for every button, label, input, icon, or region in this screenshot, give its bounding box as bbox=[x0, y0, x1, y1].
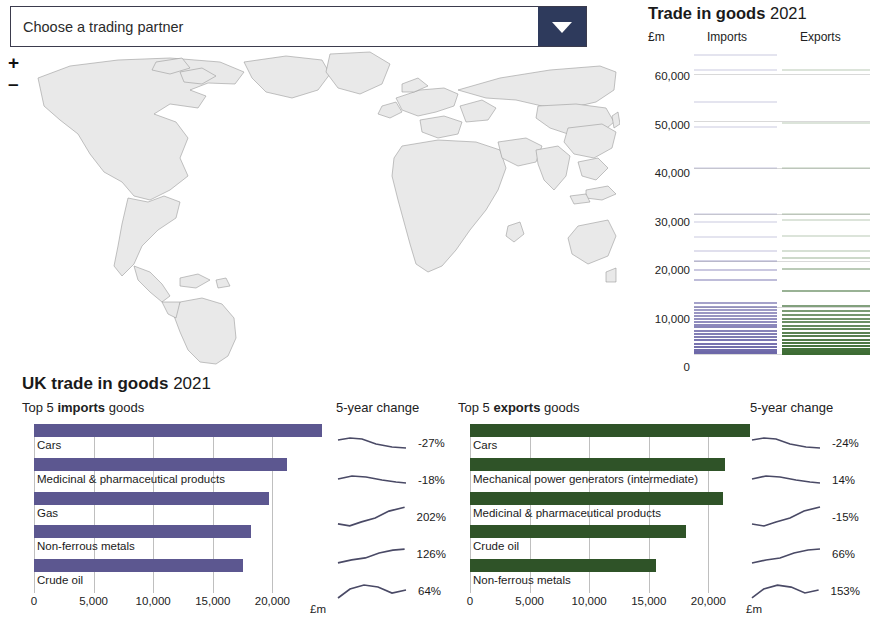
y-axis-tick-label: 40,000 bbox=[648, 167, 690, 179]
strip-mark[interactable] bbox=[694, 326, 777, 328]
strip-mark[interactable] bbox=[694, 324, 777, 326]
strip-mark[interactable] bbox=[694, 343, 777, 345]
strip-mark[interactable] bbox=[694, 236, 777, 238]
map-zoom-controls[interactable]: + – bbox=[8, 52, 28, 94]
strip-mark[interactable] bbox=[782, 321, 870, 323]
bar-row[interactable]: Mechanical power generators (intermediat… bbox=[470, 458, 768, 492]
strip-mark[interactable] bbox=[782, 213, 870, 215]
strip-mark[interactable] bbox=[782, 345, 870, 347]
x-axis-tick-label: 15,000 bbox=[195, 595, 230, 607]
strip-mark[interactable] bbox=[694, 126, 777, 128]
strip-mark[interactable] bbox=[694, 321, 777, 323]
x-axis-tick-label: 15,000 bbox=[631, 595, 666, 607]
strip-mark[interactable] bbox=[694, 167, 777, 169]
strip-mark[interactable] bbox=[782, 339, 870, 341]
bar-row[interactable]: Medicinal & pharmaceutical products bbox=[34, 458, 332, 492]
strip-mark[interactable] bbox=[694, 302, 777, 304]
bar-row[interactable]: Gas bbox=[34, 492, 332, 526]
strip-mark[interactable] bbox=[782, 342, 870, 344]
bar-category-label: Cars bbox=[473, 439, 497, 451]
strip-mark[interactable] bbox=[694, 346, 777, 348]
strip-mark[interactable] bbox=[694, 330, 777, 332]
strip-mark[interactable] bbox=[782, 219, 870, 221]
strip-mark[interactable] bbox=[694, 279, 777, 281]
strip-mark[interactable] bbox=[694, 352, 777, 354]
bar[interactable] bbox=[34, 525, 251, 538]
strip-mark[interactable] bbox=[694, 250, 777, 252]
strip-chart-exports-header: Exports bbox=[800, 30, 841, 44]
world-map-svg[interactable] bbox=[30, 50, 620, 365]
imports-subtitle-pre: Top 5 bbox=[22, 400, 57, 415]
strip-mark[interactable] bbox=[694, 101, 777, 103]
bar[interactable] bbox=[34, 424, 322, 437]
world-map[interactable] bbox=[30, 50, 620, 365]
bar[interactable] bbox=[470, 424, 750, 437]
bar[interactable] bbox=[470, 492, 723, 505]
change-row: -15% bbox=[750, 498, 860, 535]
strip-mark[interactable] bbox=[694, 339, 777, 341]
strip-mark[interactable] bbox=[782, 353, 870, 355]
strip-mark[interactable] bbox=[694, 306, 777, 308]
bar-row[interactable]: Crude oil bbox=[470, 525, 768, 559]
strip-mark[interactable] bbox=[782, 122, 870, 124]
strip-mark[interactable] bbox=[694, 213, 777, 215]
chevron-down-icon[interactable] bbox=[538, 7, 586, 46]
bar-row[interactable]: Crude oil bbox=[34, 559, 332, 593]
bar-row[interactable]: Non-ferrous metals bbox=[470, 559, 768, 593]
strip-mark[interactable] bbox=[782, 268, 870, 270]
zoom-out-button[interactable]: – bbox=[8, 73, 28, 94]
x-axis-tick-label: 0 bbox=[31, 595, 37, 607]
strip-mark[interactable] bbox=[782, 69, 870, 71]
imports-bar-block: Top 5 imports goods 5-year change 05,000… bbox=[14, 400, 444, 639]
strip-mark[interactable] bbox=[782, 310, 870, 312]
strip-mark[interactable] bbox=[694, 336, 777, 338]
strip-mark[interactable] bbox=[694, 318, 777, 320]
imports-subtitle: Top 5 imports goods bbox=[22, 400, 144, 415]
strip-mark[interactable] bbox=[782, 305, 870, 307]
strip-mark[interactable] bbox=[782, 314, 870, 316]
strip-mark[interactable] bbox=[694, 315, 777, 317]
change-row: 66% bbox=[750, 535, 860, 572]
strip-mark[interactable] bbox=[694, 312, 777, 314]
strip-mark[interactable] bbox=[694, 221, 777, 223]
strip-mark[interactable] bbox=[782, 290, 870, 292]
sparkline-icon bbox=[750, 578, 821, 604]
change-row: 64% bbox=[336, 572, 446, 609]
bar[interactable] bbox=[470, 525, 686, 538]
change-value: 202% bbox=[417, 511, 446, 523]
strip-mark[interactable] bbox=[782, 335, 870, 337]
strip-mark[interactable] bbox=[782, 318, 870, 320]
imports-plot: 05,00010,00015,00020,000CarsMedicinal & … bbox=[34, 424, 332, 593]
exports-change-header: 5-year change bbox=[750, 400, 833, 415]
bar-category-label: Medicinal & pharmaceutical products bbox=[473, 507, 661, 519]
trading-partner-dropdown[interactable]: Choose a trading partner bbox=[10, 6, 587, 47]
strip-mark[interactable] bbox=[694, 260, 777, 262]
strip-mark[interactable] bbox=[782, 328, 870, 330]
zoom-in-button[interactable]: + bbox=[8, 52, 28, 73]
strip-mark[interactable] bbox=[694, 309, 777, 311]
bar[interactable] bbox=[34, 492, 269, 505]
x-axis-tick-label: 10,000 bbox=[572, 595, 607, 607]
strip-mark[interactable] bbox=[782, 325, 870, 327]
bar[interactable] bbox=[470, 458, 725, 471]
strip-mark[interactable] bbox=[782, 332, 870, 334]
bar-row[interactable]: Cars bbox=[34, 424, 332, 458]
bar[interactable] bbox=[470, 559, 656, 572]
strip-mark[interactable] bbox=[694, 333, 777, 335]
strip-mark[interactable] bbox=[782, 257, 870, 259]
strip-mark[interactable] bbox=[782, 235, 870, 237]
change-row: 153% bbox=[750, 572, 860, 609]
bar[interactable] bbox=[34, 458, 287, 471]
bar[interactable] bbox=[34, 559, 243, 572]
strip-mark[interactable] bbox=[694, 54, 777, 56]
bar-row[interactable]: Medicinal & pharmaceutical products bbox=[470, 492, 768, 526]
bottom-section-title-bold: UK trade in goods bbox=[22, 374, 168, 393]
bar-row[interactable]: Non-ferrous metals bbox=[34, 525, 332, 559]
strip-mark[interactable] bbox=[694, 69, 777, 71]
change-value: -18% bbox=[418, 474, 445, 486]
strip-mark[interactable] bbox=[782, 250, 870, 252]
imports-change-column: -27%-18%202%126%64% bbox=[336, 424, 446, 609]
bar-row[interactable]: Cars bbox=[470, 424, 768, 458]
strip-mark[interactable] bbox=[782, 167, 870, 169]
strip-mark[interactable] bbox=[694, 269, 777, 271]
